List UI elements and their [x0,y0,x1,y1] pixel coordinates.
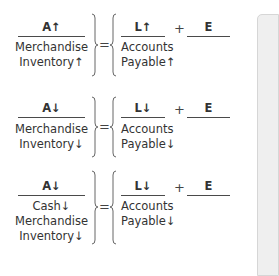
liabilities-item: Accounts [121,199,173,214]
side-panel [257,14,279,276]
equity-rule [187,195,230,196]
left-brace-icon [109,14,117,76]
equity-header: E [187,180,230,193]
equity-rule [187,117,230,118]
liabilities-rule [121,117,165,118]
liabilities-item: Payable↓ [121,137,176,152]
right-brace-icon [91,171,99,244]
assets-item: Merchandise [10,214,93,229]
right-brace-icon [91,14,99,76]
plus-sign: + [174,103,185,117]
assets-item: Inventory↓ [10,229,93,244]
assets-rule [18,117,85,118]
assets-item: Merchandise [10,40,93,55]
liabilities-item: Accounts [121,122,173,137]
assets-rule [18,36,85,37]
assets-rule [18,195,85,196]
assets-item: Cash↓ [10,199,93,214]
assets-item: Merchandise [10,122,93,137]
left-brace-icon [109,171,117,244]
liabilities-item: Payable↑ [121,55,176,70]
plus-sign: + [174,181,185,195]
liabilities-item: Accounts [121,40,173,55]
liabilities-rule [121,36,165,37]
equity-header: E [187,21,230,34]
plus-sign: + [174,22,185,36]
liabilities-rule [121,195,165,196]
assets-header: A↓ [18,102,85,115]
liabilities-header: L↓ [121,180,165,193]
assets-header: A↑ [18,21,85,34]
equity-rule [187,36,230,37]
liabilities-item: Payable↓ [121,214,176,229]
right-brace-icon [91,97,99,157]
assets-item: Inventory↑ [10,55,93,70]
left-brace-icon [109,97,117,157]
assets-header: A↓ [18,180,85,193]
liabilities-header: L↓ [121,102,165,115]
liabilities-header: L↑ [121,21,165,34]
equity-header: E [187,102,230,115]
assets-item: Inventory↓ [10,137,93,152]
